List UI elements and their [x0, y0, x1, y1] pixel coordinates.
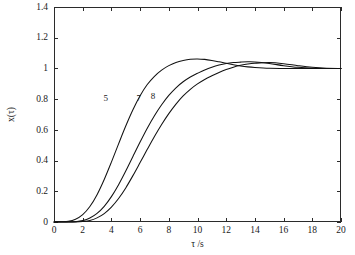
y-tick-label: 1.2 — [36, 32, 48, 42]
y-tick-label: 0.4 — [36, 155, 48, 165]
y-tick-label: 0.2 — [36, 186, 48, 196]
line-chart: 0246810121416182000.20.40.60.811.21.4 57… — [0, 0, 355, 255]
data-curve-8 — [54, 63, 341, 222]
y-tick-label: 0.8 — [36, 94, 48, 104]
y-tick-label: 1.4 — [36, 2, 48, 12]
y-tick-label: 0 — [43, 217, 48, 227]
x-tick-label: 2 — [80, 225, 85, 235]
curve-label-5: 5 — [103, 93, 108, 103]
y-tick-label: 1 — [43, 63, 48, 73]
curve-label-7: 7 — [136, 93, 141, 103]
curve-label-8: 8 — [151, 91, 156, 101]
x-tick-label: 0 — [52, 225, 57, 235]
y-axis-title: x(τ) — [6, 107, 17, 122]
x-tick-label: 10 — [193, 225, 203, 235]
x-axis-title: τ /s — [191, 239, 204, 249]
y-tick-label: 0.6 — [36, 125, 48, 135]
x-tick-label: 14 — [250, 225, 260, 235]
data-curve-7 — [54, 62, 341, 222]
curve-labels: 578 — [103, 91, 155, 103]
x-tick-label: 16 — [279, 225, 289, 235]
x-tick-label: 6 — [138, 225, 143, 235]
x-tick-label: 18 — [308, 225, 318, 235]
x-tick-label: 4 — [109, 225, 114, 235]
axis-tick-labels: 0246810121416182000.20.40.60.811.21.4 — [36, 2, 346, 236]
x-tick-label: 8 — [166, 225, 171, 235]
data-curves — [54, 59, 341, 222]
x-tick-label: 12 — [221, 225, 231, 235]
x-tick-label: 20 — [336, 225, 346, 235]
plot-frame — [55, 8, 341, 222]
axis-ticks — [54, 7, 342, 223]
figure-container: 0246810121416182000.20.40.60.811.21.4 57… — [0, 0, 355, 255]
